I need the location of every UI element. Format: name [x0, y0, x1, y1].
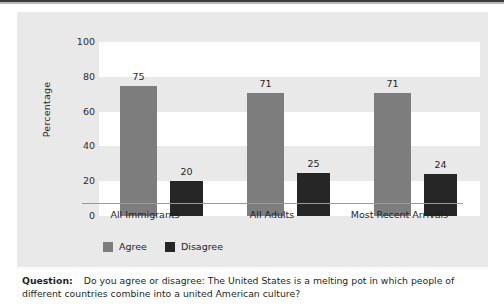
- bar-all-adults-agree[interactable]: [247, 93, 284, 217]
- question-key: Question:: [22, 275, 73, 286]
- figure-screenshot: 100 80 60 40 20 0 Percentage 75 20 71 25: [0, 0, 504, 308]
- y-axis-label: Percentage: [41, 65, 52, 155]
- legend-label-agree: Agree: [119, 241, 147, 252]
- x-category-most-recent-arrivals: Most Recent Arrivals: [336, 209, 463, 221]
- top-rule-fade: [0, 2, 504, 4]
- legend: Agree Disagree: [103, 241, 223, 252]
- x-category-all-immigrants: All Immigrants: [82, 209, 208, 221]
- y-tick-20: 20: [35, 176, 95, 186]
- bar-label-all-adults-disagree: 25: [297, 158, 330, 169]
- bar-most-recent-arrivals-agree[interactable]: [374, 93, 411, 217]
- question-text: Do you agree or disagree: The United Sta…: [22, 275, 454, 299]
- figure-panel: 100 80 60 40 20 0 Percentage 75 20 71 25: [17, 12, 488, 268]
- question-footer: Question:Do you agree or disagree: The U…: [22, 275, 484, 300]
- legend-item-agree[interactable]: Agree: [103, 241, 147, 252]
- legend-swatch-disagree-icon: [165, 242, 175, 252]
- legend-item-disagree[interactable]: Disagree: [165, 241, 223, 252]
- bar-label-all-immigrants-agree: 75: [120, 71, 157, 82]
- y-axis-ticks: 100 80 60 40 20 0: [29, 42, 95, 216]
- legend-swatch-agree-icon: [103, 242, 113, 252]
- y-tick-100: 100: [35, 37, 95, 47]
- bar-label-all-immigrants-disagree: 20: [170, 166, 203, 177]
- x-category-all-adults: All Adults: [209, 209, 335, 221]
- bar-all-immigrants-agree[interactable]: [120, 86, 157, 217]
- bar-label-most-recent-arrivals-agree: 71: [374, 78, 411, 89]
- footer-separator: [17, 267, 488, 269]
- plot-area: 75 20 71 25 71 24: [99, 42, 480, 216]
- x-axis-line: [82, 203, 463, 204]
- bar-label-all-adults-agree: 71: [247, 78, 284, 89]
- legend-label-disagree: Disagree: [181, 241, 223, 252]
- bar-label-most-recent-arrivals-disagree: 24: [424, 159, 457, 170]
